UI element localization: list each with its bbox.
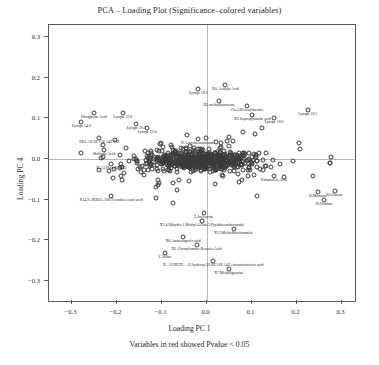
data-point [170,201,175,206]
chart-caption: Variables in red showed Pvalue < 0.05 [0,340,379,349]
data-point [261,167,266,172]
point-label: EPA. 5Z 8Z 11Z 14Z 17Z [79,141,119,145]
point-label: X..12.Phenyl.HHQ [96,167,126,171]
data-point [79,151,84,156]
y-tick-label: 0.1 [0,114,40,121]
data-point [184,132,189,137]
data-point [240,130,245,135]
data-point [195,146,200,151]
data-point [141,173,146,178]
y-axis-label: Loading PC 4 [16,158,25,200]
data-point [158,141,163,146]
x-tick-mark [161,300,162,304]
data-point [211,156,216,161]
data-point [119,174,124,179]
data-point [268,165,273,170]
data-point [219,163,224,168]
data-point [170,180,175,185]
data-point [155,147,160,152]
data-point [172,149,177,154]
y-tick-mark [44,158,48,159]
point-label: Lysopc 18.1 [298,113,317,117]
data-point [111,176,116,181]
point-label: Lysopc 14.0 [72,125,91,129]
data-point [198,169,203,174]
data-point [126,158,131,163]
data-point [153,195,158,200]
data-point [260,158,265,163]
data-point [134,157,139,162]
data-point [311,174,316,179]
data-point [252,172,257,177]
data-point [123,145,128,150]
data-point [165,153,170,158]
data-point [186,178,191,183]
data-point [182,156,187,161]
point-label: X7.Methylguanine [214,272,243,276]
point-label: X2..Formylamino.Benzoic.Acid [172,248,222,252]
data-point [155,177,160,182]
data-point [155,166,160,171]
y-tick-label: −0.3 [0,276,40,283]
y-tick-mark [44,239,48,240]
point-label: D.Fructose [316,203,333,207]
x-tick-mark [251,300,252,304]
data-point [151,154,156,159]
data-point [220,153,225,158]
x-tick-label: −0.3 [65,308,77,315]
plot-area: X0. Aenylic AcidLysopc 18.1X2.methylbuta… [48,24,356,302]
chart-title: PCA – Loading Plot (Significance–colored… [0,6,379,15]
data-point [277,162,282,167]
y-tick-label: 0.3 [0,33,40,40]
data-point [174,188,179,193]
x-tick-label: 0.3 [336,308,344,315]
data-point [159,162,164,167]
x-tick-mark [341,300,342,304]
data-point [254,194,259,199]
data-point [237,179,242,184]
data-point [175,170,180,175]
data-point [212,182,217,187]
data-point [260,125,265,130]
x-tick-mark [206,300,207,304]
data-point [221,174,226,179]
data-point [180,163,185,168]
x-tick-mark [71,300,72,304]
data-point [197,162,202,167]
data-point [145,167,150,172]
point-label: L.Valine [158,256,171,260]
point-label: X12.Methylnicotinamide [214,232,253,236]
point-label: N.Acetylneuraminate [181,143,214,147]
x-tick-label: 0.0 [201,308,209,315]
point-label: X14.9..HOHA..10E.9.oxodec.enoic acid [80,199,143,203]
data-point [298,147,303,152]
data-point [167,160,172,165]
data-point [240,150,245,155]
point-label: Lysopc 18.0 [264,121,283,125]
point-label: Phosphoric Acid [81,117,107,121]
data-point [227,160,232,165]
data-point [193,168,198,173]
data-point [177,160,182,165]
x-tick-mark [116,300,117,304]
point-label: X...12.HETE....12.hydroxy.5Z.8Z.10E.14Z.… [163,264,264,268]
point-label: X0. Aenylic Acid [212,88,239,92]
data-point [155,183,160,188]
data-point [329,155,334,160]
pca-loading-plot: PCA – Loading Plot (Significance–colored… [0,0,379,365]
data-point [245,173,250,178]
data-point [253,132,258,137]
data-point [264,150,269,155]
data-point [171,157,176,162]
point-label: Cis.3.Hexenylacetate [230,109,263,113]
data-point [327,160,332,165]
y-tick-mark [44,36,48,37]
y-tick-label: 0.2 [0,73,40,80]
data-point [227,135,232,140]
data-point [167,169,172,174]
data-point [226,144,231,149]
data-point [143,161,148,166]
data-point [290,158,295,163]
point-label: Uracil [242,164,252,168]
data-point [177,178,182,183]
